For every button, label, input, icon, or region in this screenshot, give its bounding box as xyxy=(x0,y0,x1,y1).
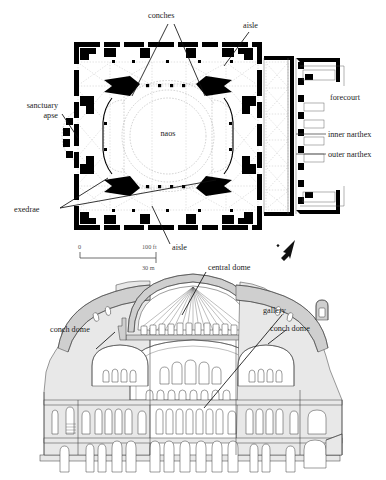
plan-label-sanctuary-apse-line2: apse xyxy=(43,111,58,120)
section-left-aisle-halfdome xyxy=(92,345,148,386)
section-label-gallery: gallery xyxy=(263,306,287,315)
plan-label-inner-narthex: inner narthex xyxy=(328,130,371,139)
scale-bar-zero: 0 xyxy=(78,243,81,250)
section-ground-floor-band xyxy=(44,438,342,443)
section-label-conch-dome-right: conch dome xyxy=(270,324,310,333)
plan-label-forecourt: forecourt xyxy=(330,93,361,102)
section-label-conch-dome-left: conch dome xyxy=(50,325,90,334)
plan-label-aisle-top: aisle xyxy=(243,21,258,30)
section-gallery-floor xyxy=(44,400,342,405)
section-label-central-dome: central dome xyxy=(208,263,251,272)
plan-label-sanctuary-apse-line1: sanctuary xyxy=(27,101,59,110)
scale-bar-meters: 30 m xyxy=(142,264,155,271)
plan-label-naos: naos xyxy=(160,129,175,138)
plan-label-outer-narthex: outer narthex xyxy=(328,150,371,159)
scale-bar-feet: 100 ft xyxy=(142,243,157,250)
plan-label-aisle-bottom: aisle xyxy=(172,243,187,252)
plan-label-exedrae: exedrae xyxy=(14,205,40,214)
section-turret-right xyxy=(316,300,328,320)
architectural-figure: conches aisle naos sanctuary apse exedra… xyxy=(0,0,386,480)
section-central-tympanum xyxy=(130,340,256,403)
plan-label-conches: conches xyxy=(148,11,174,20)
section-right-aisle-halfdome xyxy=(238,345,294,386)
